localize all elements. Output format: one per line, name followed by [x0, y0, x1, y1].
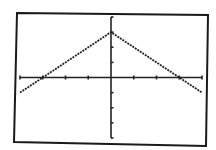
- graph-canvas: [0, 0, 216, 150]
- calculator-graph-screen: y = 3 - |x|: [0, 0, 216, 150]
